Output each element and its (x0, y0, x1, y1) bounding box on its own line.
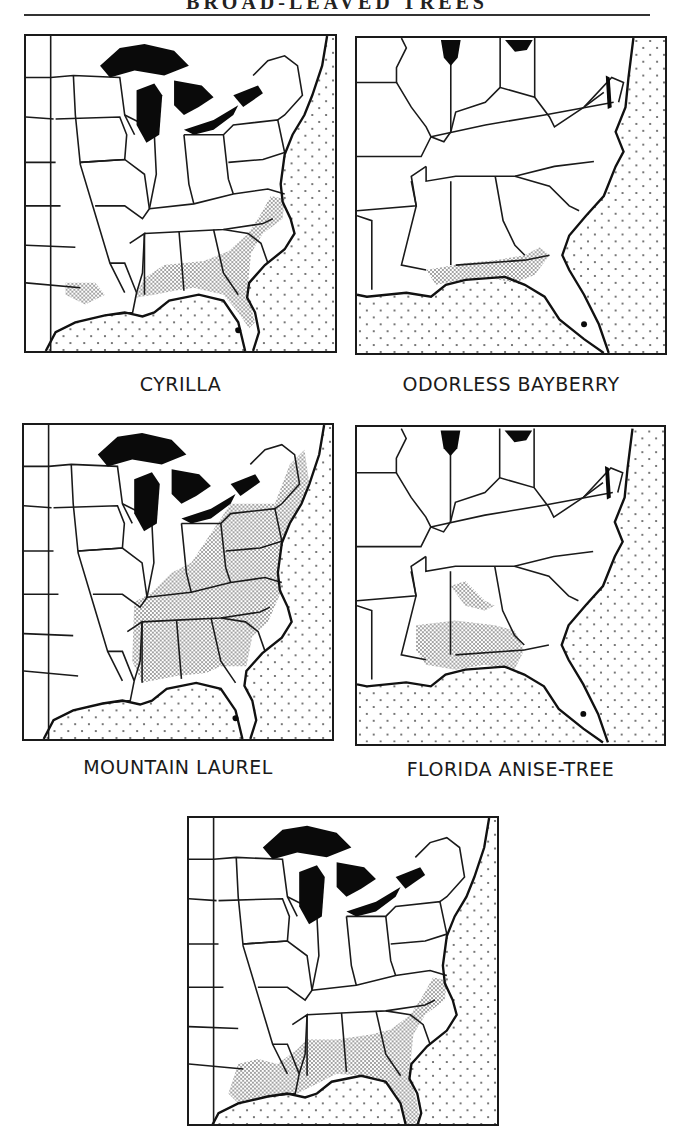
southeastern-us-map (357, 38, 665, 353)
range-map-cyrilla (24, 34, 337, 353)
map-caption-odorless-bayberry: ODORLESS BAYBERRY (355, 373, 667, 395)
map-caption-florida-anise-tree: FLORIDA ANISE-TREE (355, 758, 666, 780)
southeastern-us-map (357, 427, 664, 744)
range-map-mountain-laurel (22, 423, 334, 741)
eastern-us-map (24, 425, 332, 739)
range-map-odorless-bayberry (355, 36, 667, 355)
range-map-fifth-species (187, 816, 499, 1126)
page-title: BROAD-LEAVED TREES (0, 0, 674, 14)
eastern-us-map (189, 818, 497, 1124)
eastern-us-map (26, 36, 335, 351)
species-range (416, 620, 524, 669)
range-map-florida-anise-tree (355, 425, 666, 746)
map-caption-mountain-laurel: MOUNTAIN LAUREL (22, 756, 334, 778)
header-divider (24, 14, 650, 16)
map-caption-cyrilla: CYRILLA (24, 373, 337, 395)
